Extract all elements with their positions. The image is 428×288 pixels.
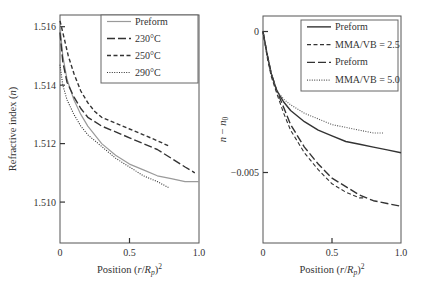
x-tick-label: 0 — [58, 247, 63, 258]
x-tick-label: 0.5 — [326, 247, 339, 258]
legend-label: Preform — [335, 21, 368, 32]
legend-label: MMA/VB = 5.0 — [335, 74, 400, 85]
y-tick-label: 1.512 — [34, 138, 57, 149]
x-tick-label: 1.0 — [193, 247, 206, 258]
x-axis-label: Position (r/Rp)2 — [97, 262, 162, 277]
chart-canvas: 00.51.01.5101.5121.5141.516Position (r/R… — [0, 0, 428, 288]
x-tick-label: 0.5 — [123, 247, 136, 258]
y-axis-label: n − n0 — [217, 117, 230, 143]
y-axis-label: Refractive index (n) — [7, 86, 19, 171]
panel-refractive-index: 00.51.01.5101.5121.5141.516Position (r/R… — [7, 15, 205, 277]
legend-label: 230°C — [135, 33, 161, 44]
x-tick-label: 0 — [261, 247, 266, 258]
figure: 00.51.01.5101.5121.5141.516Position (r/R… — [0, 0, 428, 288]
legend: PreformMMA/VB = 2.5PreformMMA/VB = 5.0 — [301, 20, 400, 91]
y-tick-label: 1.516 — [34, 21, 57, 32]
y-tick-label: 0 — [254, 26, 259, 37]
y-tick-label: −0.005 — [231, 167, 259, 178]
y-tick-label: 1.510 — [34, 197, 57, 208]
panel-index-difference: 00.51.00−0.005Position (r/Rp)2n − n0Pref… — [217, 16, 407, 277]
legend: Preform230°C250°C290°C — [101, 15, 198, 83]
x-tick-label: 1.0 — [395, 247, 408, 258]
legend-label: Preform — [135, 16, 168, 27]
x-axis-label: Position (r/Rp)2 — [300, 262, 365, 277]
legend-label: Preform — [335, 56, 368, 67]
y-tick-label: 1.514 — [34, 80, 57, 91]
legend-label: MMA/VB = 2.5 — [335, 39, 400, 50]
legend-label: 250°C — [135, 50, 161, 61]
legend-label: 290°C — [135, 67, 161, 78]
